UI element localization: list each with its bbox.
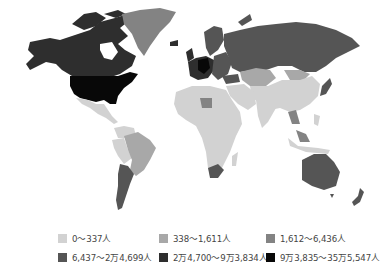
region-argentina-chile	[116, 164, 134, 210]
region-greenland	[122, 8, 176, 56]
legend-swatch	[58, 253, 67, 262]
legend-label: 2万4,700〜9万3,834人	[173, 251, 268, 263]
region-novaya-zemlya	[238, 14, 252, 26]
region-kazakhstan	[240, 68, 276, 86]
legend-swatch	[159, 253, 168, 262]
region-malaysia-indonesia	[296, 130, 310, 142]
region-tasmania	[330, 194, 334, 198]
legend-item-class-6: 9万3,835〜35万5,547人	[266, 251, 380, 263]
legend-swatch	[266, 253, 275, 262]
legend-swatch	[266, 234, 275, 243]
region-scandinavia	[204, 26, 224, 56]
region-philippines	[314, 114, 320, 126]
legend-label: 1,612〜6,436人	[280, 232, 346, 244]
legend-item-class-2: 338〜1,611人	[159, 232, 231, 244]
region-russia	[224, 22, 360, 72]
legend-label: 6,437〜2万4,699人	[72, 251, 152, 263]
region-libya	[200, 98, 212, 108]
map-legend: 0〜337人 338〜1,611人 1,612〜6,436人 6,437〜2万4…	[58, 232, 376, 272]
legend-label: 0〜337人	[72, 232, 111, 244]
region-madagascar	[232, 152, 238, 166]
region-india	[256, 100, 276, 128]
legend-item-class-4: 6,437〜2万4,699人	[58, 251, 152, 263]
region-iceland	[170, 40, 178, 46]
world-choropleth-map	[0, 0, 376, 222]
legend-swatch	[58, 234, 67, 243]
legend-item-class-1: 0〜337人	[58, 232, 111, 244]
legend-label: 338〜1,611人	[173, 232, 231, 244]
region-japan	[320, 78, 332, 96]
region-thailand-vietnam	[288, 110, 300, 124]
region-new-zealand	[352, 188, 364, 206]
legend-swatch	[159, 234, 168, 243]
legend-label: 9万3,835〜35万5,547人	[280, 251, 380, 263]
region-australia	[302, 154, 340, 190]
legend-item-class-5: 2万4,700〜9万3,834人	[159, 251, 268, 263]
legend-item-class-3: 1,612〜6,436人	[266, 232, 346, 244]
